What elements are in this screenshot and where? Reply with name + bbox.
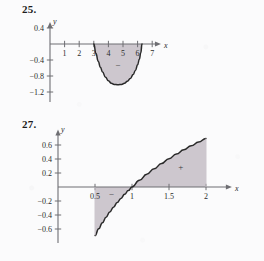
chart-27-canvas: −+ xy 0.511.520.60.40.2−0.2−0.4−0.6 <box>22 117 258 259</box>
y-tick-label: −0.4 <box>29 56 44 65</box>
x-axis-arrow <box>226 184 232 189</box>
problem-27: 27. −+ xy 0.511.520.60.40.2−0.2−0.4−0.6 <box>0 116 264 261</box>
textbook-figure-page: 25. − xy 12345670.4−0.4−0.8−1.2 27. −+ x… <box>0 0 264 261</box>
shaded-region-1 <box>132 138 206 187</box>
region-sign-plus: + <box>178 162 183 172</box>
region-sign-minus: − <box>115 60 120 70</box>
y-tick-label: 0.4 <box>42 155 52 164</box>
chart-25-canvas: − xy 12345670.4−0.4−0.8−1.2 <box>22 4 242 114</box>
x-tick-label: 1 <box>130 192 134 201</box>
x-tick-label: 0.5 <box>90 192 100 201</box>
y-tick-label: 0.6 <box>42 141 52 150</box>
y-tick-label: 0.4 <box>34 24 44 33</box>
y-axis-arrow <box>55 130 60 136</box>
x-tick-label: 3 <box>92 49 96 58</box>
x-tick-label: 1.5 <box>164 192 174 201</box>
x-tick-label: 7 <box>150 49 154 58</box>
y-axis-arrow <box>47 22 52 28</box>
problem-25: 25. − xy 12345670.4−0.4−0.8−1.2 <box>0 0 264 116</box>
x-tick-label: 2 <box>204 192 208 201</box>
y-axis-label: y <box>60 125 65 134</box>
y-tick-label: −0.4 <box>37 211 52 220</box>
x-axis-arrow <box>155 41 161 46</box>
x-tick-label: 1 <box>63 49 67 58</box>
x-axis-label: x <box>234 184 239 193</box>
y-tick-label: 0.2 <box>42 169 52 178</box>
region-sign-minus: − <box>109 189 114 199</box>
x-axis-label: x <box>163 41 168 50</box>
y-axis-label: y <box>52 17 57 26</box>
figure-25: − xy 12345670.4−0.4−0.8−1.2 <box>22 4 242 114</box>
y-tick-label: −0.6 <box>37 225 52 234</box>
y-tick-label: −0.8 <box>29 72 44 81</box>
x-tick-label: 6 <box>136 49 140 58</box>
x-tick-label: 5 <box>121 49 125 58</box>
x-tick-label: 4 <box>106 49 110 58</box>
x-tick-label: 2 <box>77 49 81 58</box>
figure-27: −+ xy 0.511.520.60.40.2−0.2−0.4−0.6 <box>22 117 258 259</box>
y-tick-label: −0.2 <box>37 197 52 206</box>
y-tick-label: −1.2 <box>29 88 44 97</box>
